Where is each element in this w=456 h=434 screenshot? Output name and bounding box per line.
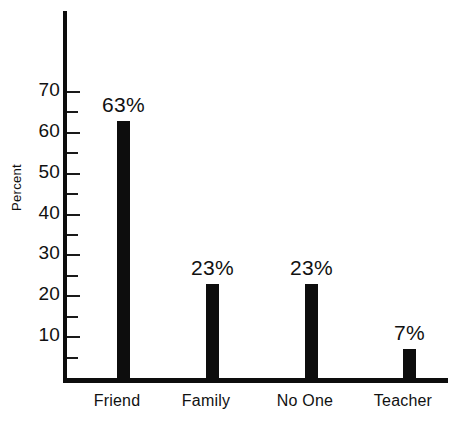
category-label-friend: Friend [67,392,167,410]
y-tick-minor-35 [67,234,78,236]
value-label-friend: 63% [89,93,159,117]
y-tick-major-30 [67,254,80,256]
y-tick-label-10: 10 [16,324,60,346]
y-tick-label-20: 20 [16,283,60,305]
value-label-no-one: 23% [277,256,347,280]
category-label-family: Family [156,392,256,410]
y-tick-label-50: 50 [16,161,60,183]
y-tick-minor-15 [67,316,78,318]
x-axis-line [63,378,448,383]
bar-chart: Percent 10203040506070 63%23%23%7% Frien… [0,0,456,434]
y-tick-major-50 [67,173,80,175]
y-tick-label-40: 40 [16,202,60,224]
y-tick-major-20 [67,295,80,297]
y-tick-label-30: 30 [16,242,60,264]
category-label-teacher: Teacher [353,392,453,410]
y-tick-major-70 [67,91,80,93]
y-axis-line [63,11,67,383]
y-tick-major-10 [67,336,80,338]
y-tick-major-60 [67,132,80,134]
category-label-no-one: No One [255,392,355,410]
y-tick-minor-65 [67,111,78,113]
bar-friend [117,121,130,378]
y-tick-major-40 [67,214,80,216]
bar-teacher [403,349,416,378]
y-tick-label-60: 60 [16,120,60,142]
y-tick-label-70: 70 [16,79,60,101]
y-tick-minor-55 [67,152,78,154]
value-label-teacher: 7% [375,321,445,345]
y-tick-minor-5 [67,357,78,359]
bar-family [206,284,219,378]
value-label-family: 23% [178,256,248,280]
y-tick-minor-25 [67,275,78,277]
bar-no-one [305,284,318,378]
y-tick-minor-45 [67,193,78,195]
